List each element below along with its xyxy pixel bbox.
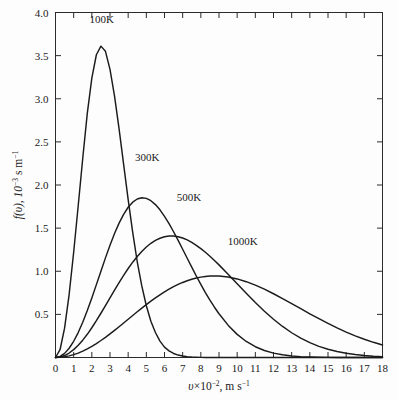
svg-text:1.5: 1.5 xyxy=(35,222,49,234)
distribution-curves xyxy=(56,46,383,357)
curve-500k xyxy=(56,236,383,357)
svg-text:17: 17 xyxy=(359,362,371,374)
svg-text:6: 6 xyxy=(162,362,168,374)
svg-text:10: 10 xyxy=(232,362,244,374)
svg-text:1.0: 1.0 xyxy=(35,265,49,277)
curve-annotations: 100K300K500K1000K xyxy=(90,13,258,248)
svg-text:1: 1 xyxy=(71,362,77,374)
y-axis-tick-labels: 0.51.01.52.02.53.03.54.0 xyxy=(35,7,49,321)
svg-text:16: 16 xyxy=(341,362,353,374)
curve-label-500k: 500K xyxy=(177,191,202,203)
curve-label-300k: 300K xyxy=(135,151,160,163)
svg-text:0: 0 xyxy=(53,362,59,374)
curve-label-1000k: 1000K xyxy=(228,235,258,247)
x-axis-title: υ×10−2, m s−1 xyxy=(188,379,250,393)
curve-1000k xyxy=(56,276,383,358)
chart-canvas: 0123456789101112131415161718 0.51.01.52.… xyxy=(0,0,398,400)
svg-text:7: 7 xyxy=(180,362,186,374)
svg-text:υ×10−2, m s−1: υ×10−2, m s−1 xyxy=(188,379,250,393)
svg-text:3.0: 3.0 xyxy=(35,93,49,105)
y-axis-title: f(υ), 10−3 s m−1 xyxy=(11,150,25,219)
svg-text:4: 4 xyxy=(125,362,131,374)
svg-text:5: 5 xyxy=(144,362,150,374)
svg-text:12: 12 xyxy=(268,362,279,374)
x-axis-tick-labels: 0123456789101112131415161718 xyxy=(53,362,389,374)
svg-text:f(υ), 10−3 s m−1: f(υ), 10−3 s m−1 xyxy=(11,150,25,219)
svg-text:2.0: 2.0 xyxy=(35,179,49,191)
svg-text:13: 13 xyxy=(286,362,298,374)
svg-text:15: 15 xyxy=(323,362,335,374)
svg-text:18: 18 xyxy=(377,362,389,374)
curve-label-100k: 100K xyxy=(90,13,115,25)
svg-text:2: 2 xyxy=(89,362,95,374)
svg-text:8: 8 xyxy=(198,362,204,374)
svg-text:14: 14 xyxy=(304,362,316,374)
svg-text:11: 11 xyxy=(250,362,261,374)
svg-text:9: 9 xyxy=(216,362,222,374)
svg-text:3.5: 3.5 xyxy=(35,50,49,62)
maxwell-boltzmann-distribution-figure: 0123456789101112131415161718 0.51.01.52.… xyxy=(0,0,398,400)
svg-text:4.0: 4.0 xyxy=(35,7,49,19)
curve-300k xyxy=(56,198,383,358)
svg-text:2.5: 2.5 xyxy=(35,136,49,148)
svg-text:3: 3 xyxy=(107,362,113,374)
curve-100k xyxy=(56,46,383,357)
svg-text:0.5: 0.5 xyxy=(35,308,49,320)
